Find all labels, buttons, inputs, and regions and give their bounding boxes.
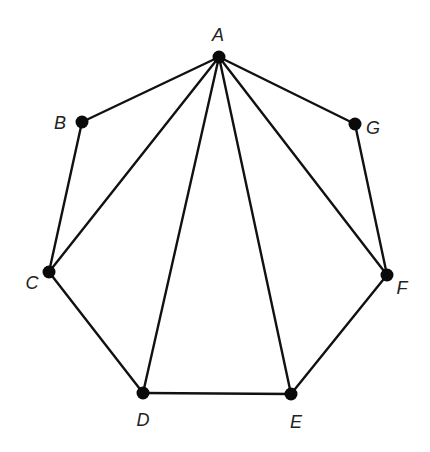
vertex-f	[381, 269, 394, 282]
side-ga	[219, 57, 355, 124]
side-ab	[82, 57, 219, 122]
vertex-label-a: A	[211, 25, 224, 45]
diagonal-ae	[219, 57, 291, 394]
vertex-b	[76, 116, 89, 129]
side-de	[143, 393, 291, 394]
vertex-g	[349, 118, 362, 131]
vertex-label-b: B	[54, 113, 66, 133]
vertex-c	[43, 266, 56, 279]
vertex-label-c: C	[26, 273, 40, 293]
diagonal-ad	[143, 57, 219, 393]
vertex-label-e: E	[290, 412, 303, 432]
diagonal-af	[219, 57, 387, 275]
side-ef	[291, 275, 387, 394]
side-cd	[49, 272, 143, 393]
vertex-label-f: F	[397, 278, 409, 298]
vertex-label-d: D	[137, 410, 150, 430]
vertex-e	[285, 388, 298, 401]
vertex-label-g: G	[366, 118, 380, 138]
heptagon-diagram: ABCDEFG	[0, 0, 430, 452]
vertex-d	[137, 387, 150, 400]
edges-group	[49, 57, 387, 394]
vertex-a	[213, 51, 226, 64]
vertices-group	[43, 51, 394, 401]
